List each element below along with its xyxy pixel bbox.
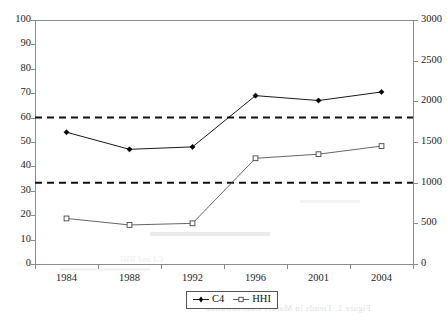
marker-c4 bbox=[127, 147, 132, 152]
x-axis-tick bbox=[350, 265, 351, 269]
x-axis-tick bbox=[161, 265, 162, 269]
legend-label-hhi: HHI bbox=[252, 294, 271, 305]
series-layer bbox=[35, 20, 413, 265]
scan-speck bbox=[60, 268, 150, 271]
right-axis-tick bbox=[413, 183, 418, 184]
right-axis-tick bbox=[413, 101, 418, 102]
right-axis-tick bbox=[413, 61, 418, 62]
x-axis-tick bbox=[413, 265, 414, 269]
marker-hhi bbox=[253, 156, 258, 161]
left-axis-tick-label: 20 bbox=[3, 208, 31, 219]
open-square-icon bbox=[233, 295, 249, 304]
x-axis-tick-label: 1988 bbox=[105, 272, 155, 283]
left-axis-tick-label: 50 bbox=[3, 135, 31, 146]
right-axis-tick bbox=[413, 142, 418, 143]
left-axis-tick-label: 90 bbox=[3, 37, 31, 48]
left-axis-tick-label: 30 bbox=[3, 184, 31, 195]
right-axis-tick-label: 2500 bbox=[421, 54, 447, 65]
left-axis-tick-label: 40 bbox=[3, 159, 31, 170]
marker-hhi bbox=[316, 152, 321, 157]
series-line-hhi bbox=[67, 146, 382, 225]
marker-hhi bbox=[127, 223, 132, 228]
x-axis-tick bbox=[98, 265, 99, 269]
right-axis-tick-label: 2000 bbox=[421, 94, 447, 105]
marker-c4 bbox=[64, 130, 69, 135]
marker-c4 bbox=[379, 89, 384, 94]
x-axis-tick bbox=[35, 265, 36, 269]
x-axis-tick-label: 1996 bbox=[231, 272, 281, 283]
marker-c4 bbox=[316, 98, 321, 103]
right-axis-tick-label: 1500 bbox=[421, 135, 447, 146]
x-axis-tick-label: 2001 bbox=[294, 272, 344, 283]
plot-area: 0102030405060708090100 05001000150020002… bbox=[35, 20, 413, 264]
legend-label-c4: C4 bbox=[212, 294, 224, 305]
x-axis-tick bbox=[224, 265, 225, 269]
left-axis-tick-label: 100 bbox=[3, 13, 31, 24]
legend-item-hhi: HHI bbox=[233, 294, 271, 305]
x-axis-tick-label: 1984 bbox=[42, 272, 92, 283]
x-axis-tick bbox=[287, 265, 288, 269]
filled-diamond-icon bbox=[193, 295, 209, 304]
left-axis-tick-label: 80 bbox=[3, 62, 31, 73]
right-axis-tick bbox=[413, 20, 418, 21]
right-axis-tick-label: 500 bbox=[421, 216, 447, 227]
left-axis-tick-label: 70 bbox=[3, 86, 31, 97]
left-axis-tick-label: 60 bbox=[3, 111, 31, 122]
right-axis-tick-label: 0 bbox=[421, 257, 447, 268]
marker-hhi bbox=[64, 216, 69, 221]
chart-legend: C4 HHI bbox=[186, 291, 278, 309]
series-line-c4 bbox=[67, 92, 382, 149]
marker-hhi bbox=[190, 221, 195, 226]
left-axis-tick-label: 0 bbox=[3, 257, 31, 268]
right-axis-tick-label: 3000 bbox=[421, 13, 447, 24]
left-axis-tick-label: 10 bbox=[3, 233, 31, 244]
right-axis-tick bbox=[413, 223, 418, 224]
legend-item-c4: C4 bbox=[193, 294, 224, 305]
x-axis-tick-label: 2004 bbox=[357, 272, 407, 283]
concentration-trend-chart: Figure 1. Trends in Market Concentration… bbox=[0, 0, 447, 320]
marker-hhi bbox=[379, 144, 384, 149]
right-axis-tick-label: 1000 bbox=[421, 176, 447, 187]
x-axis-tick-label: 1992 bbox=[168, 272, 218, 283]
